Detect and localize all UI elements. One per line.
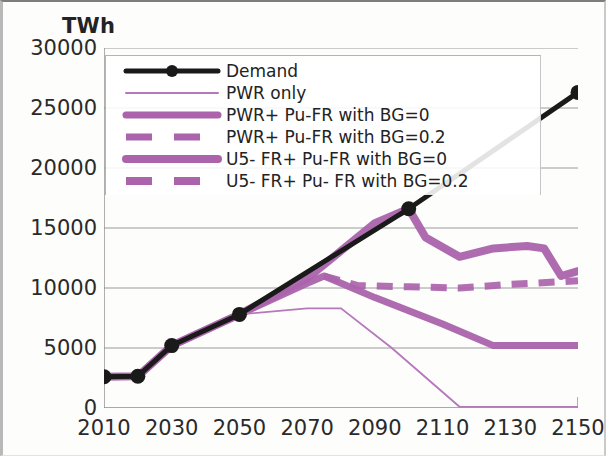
y-tick-label: 30000 bbox=[5, 36, 97, 60]
demand-data-point bbox=[164, 338, 179, 353]
legend-marker bbox=[166, 65, 178, 77]
x-tick-label: 2110 bbox=[416, 416, 469, 440]
legend-swatch bbox=[122, 104, 226, 126]
legend-swatch bbox=[122, 148, 226, 170]
x-tick-label: 2090 bbox=[348, 416, 401, 440]
y-axis-tick-labels: 050001000015000200002500030000 bbox=[0, 0, 97, 456]
legend-item-label: PWR+ Pu-FR with BG=0 bbox=[226, 106, 429, 124]
legend-item[interactable]: Demand bbox=[106, 60, 540, 82]
y-tick-label: 15000 bbox=[5, 216, 97, 240]
legend-swatch-glyph bbox=[122, 170, 226, 192]
x-tick-label: 2030 bbox=[145, 416, 198, 440]
legend-item[interactable]: U5- FR+ Pu-FR with BG=0 bbox=[106, 148, 540, 170]
demand-data-point bbox=[232, 307, 247, 322]
y-tick-label: 5000 bbox=[5, 336, 97, 360]
demand-data-point bbox=[130, 369, 145, 384]
x-tick-label: 2130 bbox=[484, 416, 537, 440]
y-tick-label: 10000 bbox=[5, 276, 97, 300]
chart-legend: DemandPWR onlyPWR+ Pu-FR with BG=0PWR+ P… bbox=[105, 55, 541, 195]
y-tick-label: 25000 bbox=[5, 96, 97, 120]
legend-item[interactable]: PWR+ Pu-FR with BG=0 bbox=[106, 104, 540, 126]
legend-swatch-glyph bbox=[122, 126, 226, 148]
demand-data-point bbox=[104, 369, 112, 384]
x-tick-label: 2050 bbox=[213, 416, 266, 440]
legend-swatch bbox=[122, 60, 226, 82]
legend-item[interactable]: PWR only bbox=[106, 82, 540, 104]
legend-item[interactable]: U5- FR+ Pu- FR with BG=0.2 bbox=[106, 170, 540, 192]
demand-data-point bbox=[401, 201, 416, 216]
legend-item-label: PWR+ Pu-FR with BG=0.2 bbox=[226, 128, 446, 146]
legend-item-label: Demand bbox=[226, 62, 298, 80]
legend-item-label: U5- FR+ Pu-FR with BG=0 bbox=[226, 150, 447, 168]
legend-swatch-glyph bbox=[122, 82, 226, 104]
legend-swatch-glyph bbox=[122, 104, 226, 126]
y-tick-label: 20000 bbox=[5, 156, 97, 180]
series-line-pwr-pufr-bg02 bbox=[324, 276, 578, 288]
legend-swatch bbox=[122, 82, 226, 104]
legend-swatch bbox=[122, 170, 226, 192]
x-tick-label: 2010 bbox=[77, 416, 130, 440]
legend-swatch bbox=[122, 126, 226, 148]
x-tick-label: 2070 bbox=[280, 416, 333, 440]
series-line-pwr-only bbox=[104, 308, 578, 406]
legend-item[interactable]: PWR+ Pu-FR with BG=0.2 bbox=[106, 126, 540, 148]
legend-item-label: PWR only bbox=[226, 84, 306, 102]
x-axis-tick-labels: 20102030205020702090211021302150 bbox=[0, 412, 606, 456]
legend-swatch-glyph bbox=[122, 148, 226, 170]
legend-swatch-glyph bbox=[122, 60, 226, 82]
series-line-pwr-pufr-bg0 bbox=[104, 276, 578, 377]
legend-item-label: U5- FR+ Pu- FR with BG=0.2 bbox=[226, 172, 469, 190]
x-tick-label: 2150 bbox=[551, 416, 604, 440]
chart-screenshot: TWh 050001000015000200002500030000 Deman… bbox=[0, 0, 606, 456]
